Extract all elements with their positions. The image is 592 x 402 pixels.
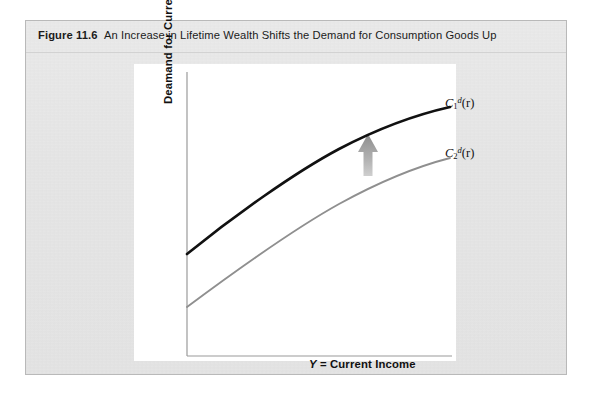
x-axis-label: Y = Current Income [309, 358, 416, 370]
x-axis-label-rest: = Current Income [317, 358, 416, 370]
plot-panel [134, 64, 456, 361]
curve1-label-arg: (r) [462, 96, 475, 110]
curve-c2d [187, 158, 450, 307]
figure-number-label: Figure 11.6 [38, 29, 98, 41]
curve-c1d [187, 107, 450, 254]
upward-shift-arrow [358, 134, 378, 176]
curve2-label-arg: (r) [462, 146, 475, 160]
curve-label-c1d: C1d(r) [445, 95, 474, 111]
figure-card: Figure 11.6 An Increase in Lifetime Weal… [25, 20, 567, 375]
curve-label-c2d: C2d(r) [445, 145, 474, 161]
y-axis-label: Deamand for Current Consumption Goods [159, 0, 177, 104]
plot-svg [134, 64, 456, 361]
figure-caption: Figure 11.6 An Increase in Lifetime Weal… [38, 29, 497, 41]
x-axis-label-variable: Y [309, 358, 317, 370]
figure-page: Figure 11.6 An Increase in Lifetime Weal… [0, 0, 592, 402]
figure-caption-bar: Figure 11.6 An Increase in Lifetime Weal… [26, 21, 566, 53]
